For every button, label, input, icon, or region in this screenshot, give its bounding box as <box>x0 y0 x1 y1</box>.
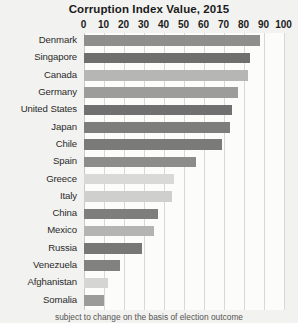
bar-row: China <box>0 206 298 223</box>
bar-row: Germany <box>0 85 298 102</box>
category-label: United States <box>21 103 77 114</box>
category-label: China <box>52 207 77 218</box>
bar-row: Singapore <box>0 50 298 67</box>
x-tick-label: 0 <box>81 19 87 30</box>
bar <box>84 243 142 254</box>
bar <box>84 209 158 220</box>
bar-row: Greece <box>0 172 298 189</box>
category-label: Chile <box>56 138 77 149</box>
bar-row: Chile <box>0 137 298 154</box>
bar <box>84 278 108 289</box>
bar-rows: DenmarkSingaporeCanadaGermanyUnited Stat… <box>0 33 298 310</box>
bar-row: Canada <box>0 68 298 85</box>
category-label: Singapore <box>34 51 77 62</box>
bar <box>84 87 238 98</box>
x-tick-label: 100 <box>275 19 292 30</box>
x-tick-label: 90 <box>258 19 269 30</box>
category-label: Spain <box>53 155 77 166</box>
footer-note: subject to change on the basis of electi… <box>0 312 298 322</box>
x-tick-label: 60 <box>198 19 209 30</box>
x-axis-tick-labels: 0102030405060708090100 <box>0 19 298 32</box>
x-tick-label: 10 <box>98 19 109 30</box>
category-label: Greece <box>46 173 77 184</box>
bar-row: United States <box>0 102 298 119</box>
bar-row: Venezuela <box>0 258 298 275</box>
bar <box>84 295 104 306</box>
corruption-index-bar-chart: Corruption Index Value, 2015 01020304050… <box>0 0 298 323</box>
bar <box>84 70 248 81</box>
bar-row: Somalia <box>0 293 298 310</box>
bar-row: Japan <box>0 120 298 137</box>
category-label: Russia <box>48 242 77 253</box>
bar <box>84 226 154 237</box>
bar <box>84 174 174 185</box>
bar-row: Spain <box>0 154 298 171</box>
bar <box>84 157 196 168</box>
bar <box>84 53 250 64</box>
bar-row: Italy <box>0 189 298 206</box>
bar <box>84 260 120 271</box>
category-label: Mexico <box>47 224 77 235</box>
category-label: Germany <box>38 86 77 97</box>
x-tick-label: 50 <box>178 19 189 30</box>
category-label: Canada <box>44 69 77 80</box>
bar <box>84 105 232 116</box>
category-label: Venezuela <box>33 259 77 270</box>
x-tick-label: 30 <box>138 19 149 30</box>
category-label: Denmark <box>39 34 77 45</box>
category-label: Japan <box>51 121 77 132</box>
x-tick-label: 70 <box>218 19 229 30</box>
bar-row: Denmark <box>0 33 298 50</box>
bar-row: Russia <box>0 241 298 258</box>
bar <box>84 139 222 150</box>
chart-title: Corruption Index Value, 2015 <box>0 3 298 15</box>
category-label: Somalia <box>43 294 77 305</box>
bar <box>84 35 260 46</box>
x-tick-label: 20 <box>118 19 129 30</box>
category-label: Afghanistan <box>27 276 77 287</box>
bar <box>84 191 172 202</box>
bar-row: Afghanistan <box>0 275 298 292</box>
bar-row: Mexico <box>0 223 298 240</box>
bar <box>84 122 230 133</box>
category-label: Italy <box>60 190 77 201</box>
x-tick-label: 80 <box>238 19 249 30</box>
x-tick-label: 40 <box>158 19 169 30</box>
